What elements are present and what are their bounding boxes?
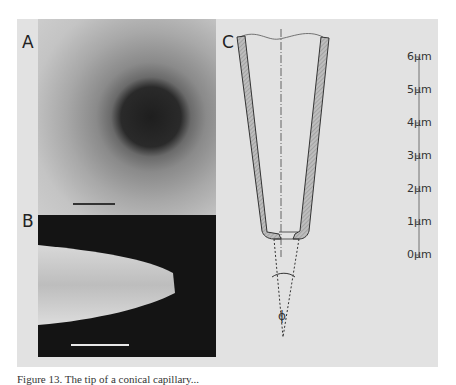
scale-tick-1um: 1µm xyxy=(407,215,432,228)
scale-tick-4um: 4µm xyxy=(407,116,432,129)
angle-phi-label: ϕ xyxy=(278,309,286,323)
scale-tick-5um: 5µm xyxy=(407,83,432,96)
scale-tick-2um: 2µm xyxy=(407,182,432,195)
scale-tick-0um: 0µm xyxy=(407,248,432,261)
figure-panel: A B C 6µm 5µm 4 xyxy=(17,19,438,367)
capillary-schematic xyxy=(17,19,438,367)
figure-caption: Figure 13. The tip of a conical capillar… xyxy=(17,373,199,385)
scale-tick-3um: 3µm xyxy=(407,149,432,162)
scale-tick-6um: 6µm xyxy=(407,50,432,63)
